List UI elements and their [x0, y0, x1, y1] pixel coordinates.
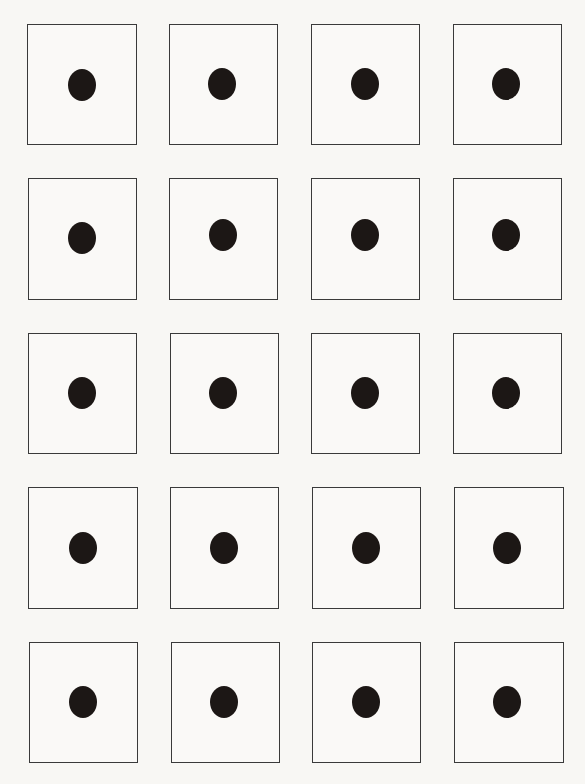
- black-dot-icon: [68, 222, 96, 254]
- black-dot-icon: [209, 219, 237, 251]
- black-dot-icon: [210, 532, 238, 564]
- black-dot-icon: [352, 686, 380, 718]
- black-dot-icon: [68, 69, 96, 101]
- black-dot-icon: [493, 686, 521, 718]
- black-dot-icon: [492, 377, 520, 409]
- black-dot-icon: [492, 68, 520, 100]
- black-dot-icon: [210, 686, 238, 718]
- black-dot-icon: [492, 219, 520, 251]
- stimulus-sheet: [0, 0, 585, 784]
- black-dot-icon: [493, 532, 521, 564]
- black-dot-icon: [69, 532, 97, 564]
- black-dot-icon: [209, 377, 237, 409]
- black-dot-icon: [351, 377, 379, 409]
- black-dot-icon: [352, 532, 380, 564]
- black-dot-icon: [68, 377, 96, 409]
- black-dot-icon: [351, 219, 379, 251]
- black-dot-icon: [208, 68, 236, 100]
- black-dot-icon: [351, 68, 379, 100]
- black-dot-icon: [69, 686, 97, 718]
